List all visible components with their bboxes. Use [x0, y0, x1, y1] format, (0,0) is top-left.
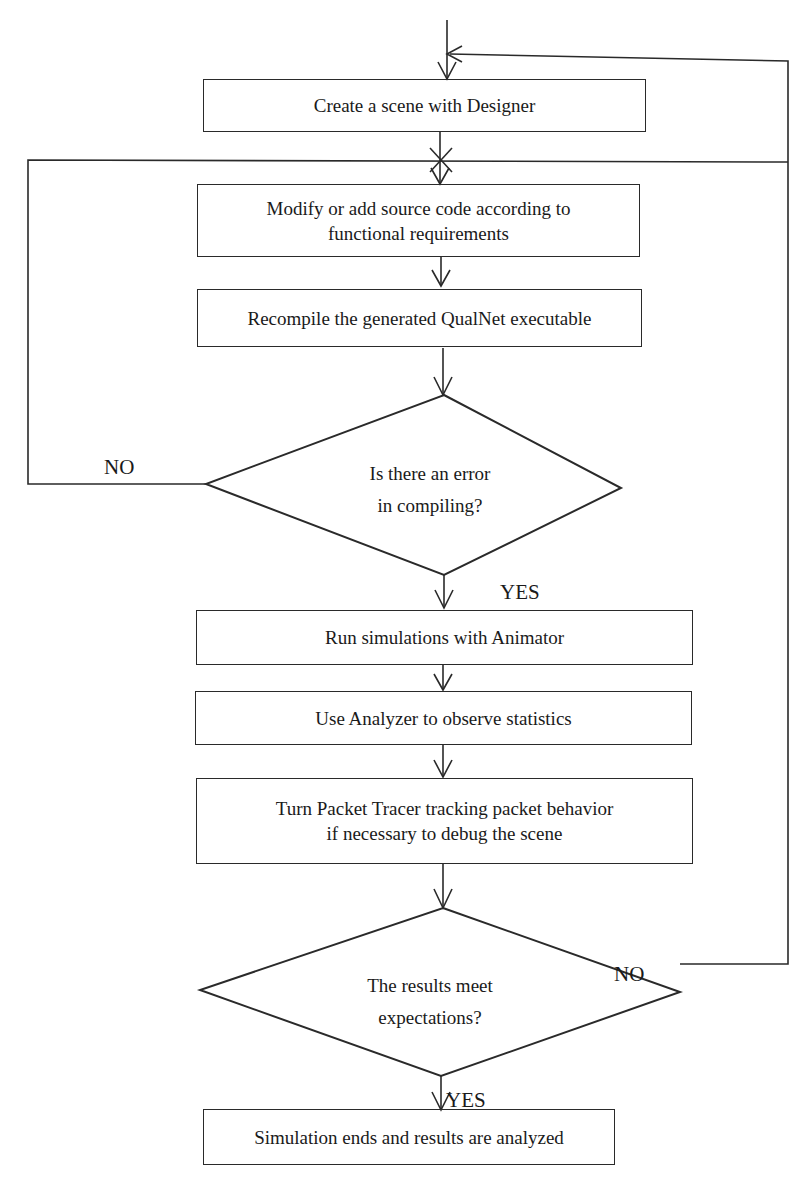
step-label: Recompile the generated QualNet executab…: [248, 306, 592, 331]
step-simulation-ends: Simulation ends and results are analyzed: [203, 1109, 615, 1165]
step-create-scene: Create a scene with Designer: [203, 79, 646, 132]
step-label: Turn Packet Tracer tracking packet behav…: [276, 796, 614, 821]
step-label: Modify or add source code according to: [267, 196, 571, 221]
step-label: Simulation ends and results are analyzed: [254, 1125, 564, 1150]
decision-label: The results meet: [330, 970, 530, 1002]
step-label: Run simulations with Animator: [325, 625, 564, 650]
decision-text-results: The results meet expectations?: [330, 970, 530, 1034]
compile-yes-label: YES: [500, 580, 540, 605]
step-use-analyzer: Use Analyzer to observe statistics: [195, 691, 692, 745]
step-run-simulations: Run simulations with Animator: [196, 610, 693, 665]
step-recompile: Recompile the generated QualNet executab…: [197, 289, 642, 347]
decision-label: Is there an error: [330, 458, 530, 490]
decision-text-compile: Is there an error in compiling?: [330, 458, 530, 522]
step-label: if necessary to debug the scene: [327, 821, 563, 846]
step-label: Use Analyzer to observe statistics: [315, 706, 571, 731]
step-packet-tracer: Turn Packet Tracer tracking packet behav…: [196, 778, 693, 864]
step-label: Create a scene with Designer: [314, 93, 536, 118]
decision-label: expectations?: [330, 1002, 530, 1034]
step-label: functional requirements: [328, 221, 509, 246]
results-no-label: NO: [614, 962, 644, 987]
decision-label: in compiling?: [330, 490, 530, 522]
compile-no-label: NO: [104, 455, 134, 480]
step-modify-code: Modify or add source code according to f…: [197, 184, 640, 257]
